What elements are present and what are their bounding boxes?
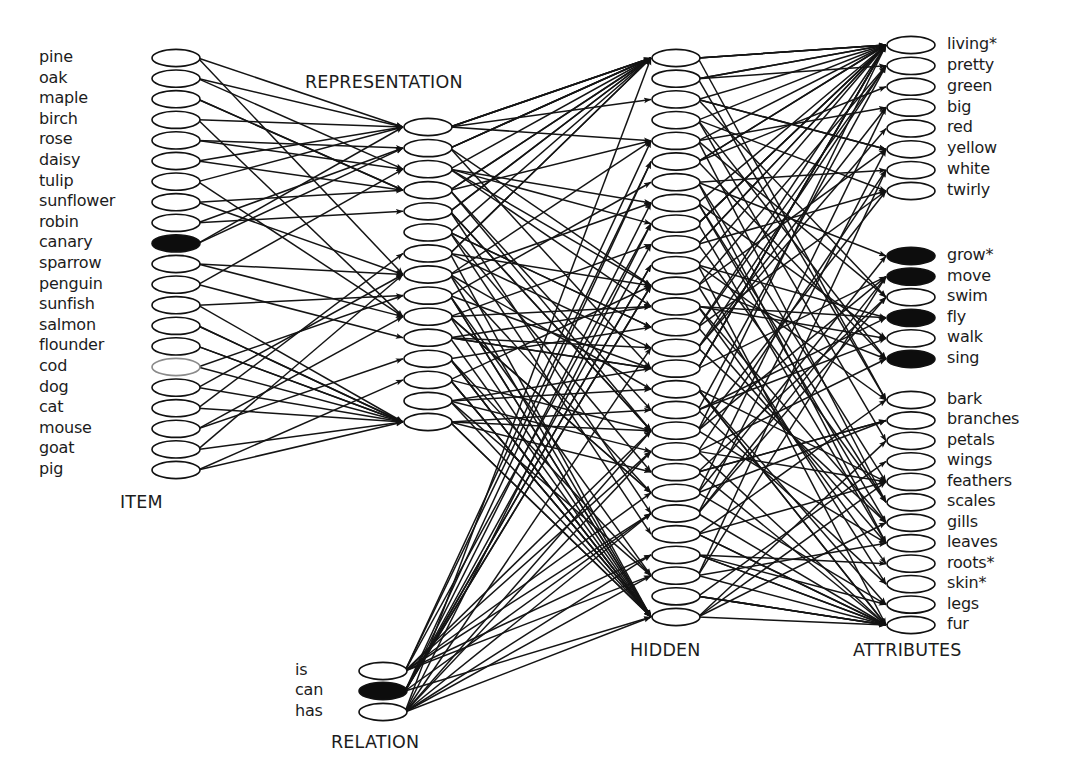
attribute-label-branches: branches [947, 409, 1019, 429]
connection-edge [198, 326, 403, 422]
attribute-unit-legs [887, 596, 935, 613]
item-unit-cod [152, 358, 200, 375]
item-label-sunflower: sunflower [39, 191, 115, 211]
hidden-unit-23 [652, 505, 700, 522]
connection-edge [450, 169, 651, 223]
hidden-unit-18 [652, 401, 700, 418]
hidden-unit-2 [652, 70, 700, 87]
item-unit-salmon [152, 317, 200, 334]
hidden-unit-20 [652, 443, 700, 460]
attribute-unit-red [887, 120, 935, 137]
network-diagram [0, 0, 1065, 782]
layer-title-relation: RELATION [331, 732, 419, 752]
attribute-label-gills: gills [947, 512, 978, 532]
hidden-unit-3 [652, 91, 700, 108]
hidden-unit-21 [652, 463, 700, 480]
connection-edge [198, 285, 403, 338]
hidden-unit-9 [652, 215, 700, 232]
attribute-label-pretty: pretty [947, 55, 994, 75]
hidden-unit-26 [652, 567, 700, 584]
item-unit-rose [152, 132, 200, 149]
hidden-unit-14 [652, 319, 700, 336]
layer-title-item: ITEM [120, 492, 163, 512]
item-label-mouse: mouse [39, 418, 92, 438]
connection-edge [198, 148, 403, 243]
hidden-unit-13 [652, 298, 700, 315]
representation-unit-14 [404, 392, 452, 409]
relation-label-is: is [295, 660, 307, 680]
connection-edge [198, 127, 403, 182]
attribute-label-living: living* [947, 34, 997, 54]
connection-edge [198, 264, 403, 317]
item-label-rose: rose [39, 129, 72, 149]
item-unit-penguin [152, 276, 200, 293]
attribute-label-legs: legs [947, 594, 979, 614]
representation-unit-13 [404, 371, 452, 388]
attribute-label-sing: sing [947, 348, 979, 368]
attribute-label-leaves: leaves [947, 532, 998, 552]
hidden-unit-28 [652, 608, 700, 625]
item-label-maple: maple [39, 88, 88, 108]
attribute-label-swim: swim [947, 286, 988, 306]
representation-unit-11 [404, 329, 452, 346]
connection-edge [450, 148, 651, 286]
connection-edges [198, 45, 886, 712]
item-unit-birch [152, 111, 200, 128]
attribute-unit-wings [887, 453, 935, 470]
attribute-unit-twirly [887, 182, 935, 199]
attribute-unit-bark [887, 391, 935, 408]
attribute-label-wings: wings [947, 450, 992, 470]
attribute-label-fur: fur [947, 614, 969, 634]
attribute-unit-move [887, 268, 935, 285]
attribute-label-twirly: twirly [947, 180, 990, 200]
connection-edge [698, 120, 886, 441]
item-unit-dog [152, 379, 200, 396]
attribute-unit-sing [887, 350, 935, 367]
hidden-unit-8 [652, 194, 700, 211]
hidden-unit-12 [652, 277, 700, 294]
connection-edge [698, 45, 886, 203]
attribute-unit-fly [887, 309, 935, 326]
connection-edge [405, 555, 651, 712]
connection-edge [698, 149, 886, 285]
attribute-unit-living [887, 36, 935, 53]
relation-unit-is [359, 662, 407, 679]
item-label-daisy: daisy [39, 150, 80, 170]
relation-label-has: has [295, 701, 323, 721]
attribute-unit-yellow [887, 141, 935, 158]
hidden-unit-4 [652, 112, 700, 129]
item-label-dog: dog [39, 377, 69, 397]
item-unit-cat [152, 400, 200, 417]
hidden-unit-16 [652, 360, 700, 377]
attribute-label-fly: fly [947, 307, 966, 327]
item-label-sparrow: sparrow [39, 253, 101, 273]
attribute-unit-feathers [887, 473, 935, 490]
connection-edge [450, 58, 651, 127]
attribute-unit-gills [887, 514, 935, 531]
attribute-unit-fur [887, 616, 935, 633]
connection-edge [698, 45, 886, 327]
item-unit-flounder [152, 338, 200, 355]
connection-edge [198, 264, 403, 275]
connection-edge [698, 203, 886, 523]
item-label-penguin: penguin [39, 274, 103, 294]
hidden-unit-11 [652, 256, 700, 273]
attribute-label-walk: walk [947, 327, 983, 347]
relation-unit-can [359, 682, 407, 699]
item-unit-daisy [152, 152, 200, 169]
item-label-oak: oak [39, 68, 67, 88]
attribute-unit-skin [887, 575, 935, 592]
item-unit-sunflower [152, 194, 200, 211]
hidden-unit-19 [652, 422, 700, 439]
hidden-unit-22 [652, 484, 700, 501]
attribute-unit-pretty [887, 57, 935, 74]
item-label-salmon: salmon [39, 315, 96, 335]
relation-unit-has [359, 703, 407, 720]
item-label-pine: pine [39, 47, 73, 67]
representation-unit-7 [404, 245, 452, 262]
item-label-tulip: tulip [39, 171, 73, 191]
item-label-cod: cod [39, 356, 67, 376]
hidden-unit-6 [652, 153, 700, 170]
connection-edge [198, 317, 403, 429]
representation-unit-6 [404, 224, 452, 241]
